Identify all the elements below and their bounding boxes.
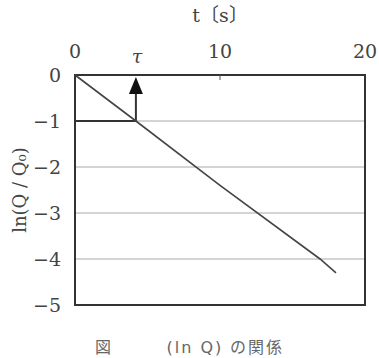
- y-tick-labels: 0−1−2−3−4−5: [33, 64, 61, 316]
- x-axis-title: t〔s〕: [192, 4, 247, 26]
- y-tick-label: 0: [49, 64, 61, 86]
- y-tick-label: −2: [33, 156, 61, 178]
- x-tick-labels: 01020: [69, 40, 377, 62]
- y-tick-label: −5: [33, 294, 61, 316]
- gridlines: [75, 121, 365, 259]
- y-axis-title: ln(Q / Q₀): [9, 147, 30, 233]
- y-tick-label: −1: [33, 110, 61, 132]
- data-series-line: [75, 75, 336, 273]
- x-tick-label: 0: [69, 40, 81, 62]
- tau-label: τ: [132, 45, 143, 67]
- y-tick-label: −3: [33, 202, 61, 224]
- tau-arrow-head-icon: [129, 77, 143, 94]
- plot-frame: [75, 75, 365, 305]
- figure-caption: 図 (ln Q) の関係: [0, 334, 379, 358]
- x-tick-label: 20: [353, 40, 377, 62]
- x-tick-label: 10: [208, 40, 232, 62]
- y-tick-label: −4: [33, 248, 61, 270]
